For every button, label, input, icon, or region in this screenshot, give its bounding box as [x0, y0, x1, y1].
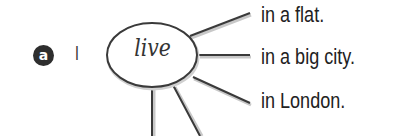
branch-text-1: in a flat.: [261, 2, 324, 28]
word-web-diagram: a I live in a flat. in a big city. in Lo…: [0, 0, 407, 136]
branch-text-2: in a big city.: [261, 44, 355, 70]
branch-line-3: [193, 77, 250, 103]
verb-text: live: [114, 34, 191, 62]
branch-line-1: [190, 13, 250, 36]
exercise-badge: a: [33, 45, 54, 66]
branch-text-3: in London.: [261, 88, 345, 114]
subject-text: I: [75, 42, 79, 65]
branch-line-empty-2: [173, 85, 200, 136]
